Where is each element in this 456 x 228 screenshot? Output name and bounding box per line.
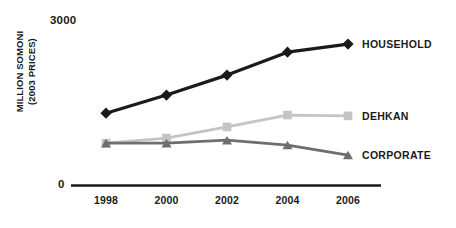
series-label-dehkan: DEHKAN — [362, 110, 409, 122]
data-point-marker — [282, 47, 293, 58]
x-tick-label-2004: 2004 — [268, 194, 308, 206]
series-label-household: HOUSEHOLD — [362, 38, 432, 50]
data-point-marker — [223, 123, 232, 132]
data-point-marker — [100, 108, 111, 119]
data-point-marker — [283, 111, 292, 120]
x-tick-label-1998: 1998 — [86, 194, 126, 206]
chart-container: 3000 0 MILLION SOMONI (2003 PRICES) 1998… — [0, 0, 456, 228]
series-layer — [100, 38, 353, 159]
x-tick-label-2000: 2000 — [147, 194, 187, 206]
x-tick-label-2006: 2006 — [328, 194, 368, 206]
data-point-marker — [344, 112, 353, 121]
series-label-corporate: CORPORATE — [362, 149, 431, 161]
data-point-marker — [342, 38, 353, 49]
data-point-marker — [161, 89, 172, 100]
series-household — [100, 38, 353, 118]
x-tick-label-2002: 2002 — [207, 194, 247, 206]
data-point-marker — [221, 70, 232, 81]
